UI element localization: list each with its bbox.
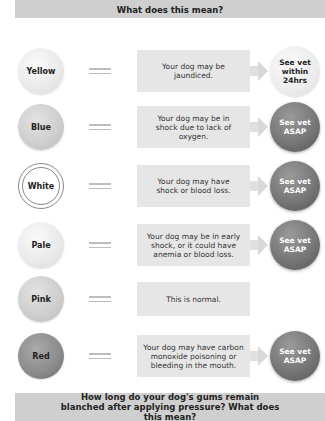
description-box: Your dog may be jaundiced. [137,50,250,92]
description-box: Your dog may have carbon monoxide poison… [137,335,250,377]
next-section-header: How long do your dog's gums remain blanc… [15,393,325,421]
action-text: See vet ASAP [276,347,314,365]
equals-icon [89,124,111,130]
gum-color-row-blue: Blue Your dog may be in shock due to lac… [0,99,325,155]
gum-color-label: Red [32,352,49,361]
gum-color-circle: Pink [18,276,64,322]
action-text: See vet ASAP [276,236,314,254]
action-circle: See vet ASAP [270,220,320,270]
gum-color-label: White [28,182,55,191]
description-box: Your dog may be in shock due to lack of … [137,106,250,148]
gum-color-row-pink: Pink This is normal. [0,271,325,327]
arrow-right-icon [250,346,268,366]
arrow-right-icon [250,117,268,137]
description-text: Your dog may be in early shock, or it co… [140,232,248,259]
equals-icon [89,242,111,248]
gum-color-row-white: White Your dog may have shock or blood l… [0,158,325,214]
equals-icon [89,68,111,74]
gum-color-row-red: Red Your dog may have carbon monoxide po… [0,328,325,384]
arrow-right-icon [250,61,268,81]
description-box: Your dog may have shock or blood loss. [137,165,250,207]
gum-color-circle: White [18,163,64,209]
action-circle: See vet within 24hrs [270,46,320,96]
section-header: What does this mean? [15,0,325,18]
arrow-right-icon [250,176,268,196]
equals-icon [89,353,111,359]
equals-icon [89,183,111,189]
description-text: Your dog may have shock or blood loss. [149,177,239,195]
description-text: This is normal. [166,295,221,304]
description-text: Your dog may be jaundiced. [159,62,229,80]
action-circle: See vet ASAP [270,331,320,381]
action-circle: See vet ASAP [270,102,320,152]
gum-color-label: Pale [31,241,50,250]
gum-color-label: Pink [31,295,51,304]
description-box: Your dog may be in early shock, or it co… [137,224,250,266]
arrow-right-icon [250,235,268,255]
action-text: See vet ASAP [276,118,314,136]
description-text: Your dog may have carbon monoxide poison… [138,343,250,370]
gum-color-circle: Red [18,333,64,379]
equals-icon [89,296,111,302]
action-text: See vet within 24hrs [273,58,317,85]
gum-color-label: Yellow [27,67,56,76]
action-text: See vet ASAP [276,177,314,195]
description-box: This is normal. [137,282,250,316]
action-circle: See vet ASAP [270,161,320,211]
description-text: Your dog may be in shock due to lack of … [149,114,239,141]
gum-color-row-pale: Pale Your dog may be in early shock, or … [0,217,325,273]
gum-color-circle: Blue [18,104,64,150]
gum-color-row-yellow: Yellow Your dog may be jaundiced. See ve… [0,43,325,99]
gum-color-label: Blue [31,123,51,132]
gum-color-circle: Yellow [18,48,64,94]
header-title: What does this mean? [15,5,325,15]
footer-question: How long do your dog's gums remain blanc… [60,392,280,421]
gum-color-circle: Pale [18,222,64,268]
